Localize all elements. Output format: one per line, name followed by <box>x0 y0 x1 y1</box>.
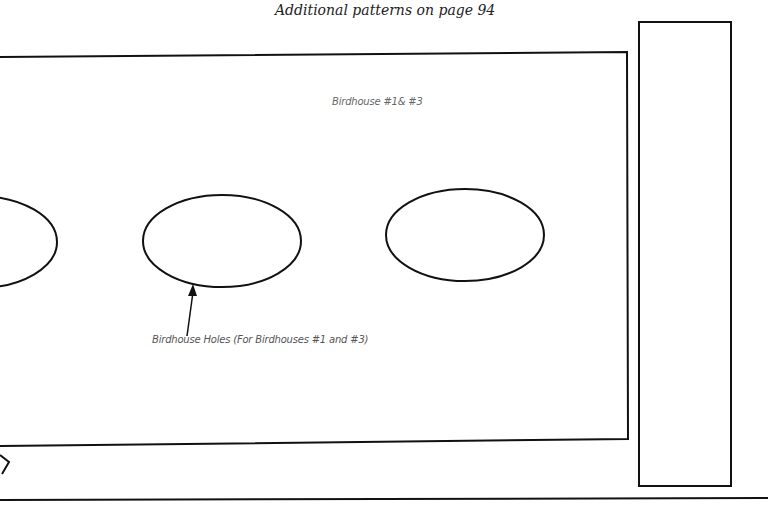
center-hole-ellipse <box>143 195 301 287</box>
holes-caption: Birdhouse Holes (For Birdhouses #1 and #… <box>152 334 368 345</box>
header-note: Additional patterns on page 94 <box>275 2 495 18</box>
right-hole-ellipse <box>386 189 544 281</box>
side-panel-outline <box>639 22 731 486</box>
pattern-page: Additional patterns on page 94 Birdhouse… <box>0 0 768 521</box>
bottom-baseline <box>0 498 768 500</box>
main-panel-outline <box>0 52 628 446</box>
pattern-drawing <box>0 0 768 521</box>
pattern-title: Birdhouse #1& #3 <box>332 96 423 107</box>
left-hole-ellipse <box>0 196 57 288</box>
arrow-head-icon <box>188 284 197 296</box>
corner-fragment <box>0 455 9 474</box>
arrow-shaft <box>187 292 193 336</box>
